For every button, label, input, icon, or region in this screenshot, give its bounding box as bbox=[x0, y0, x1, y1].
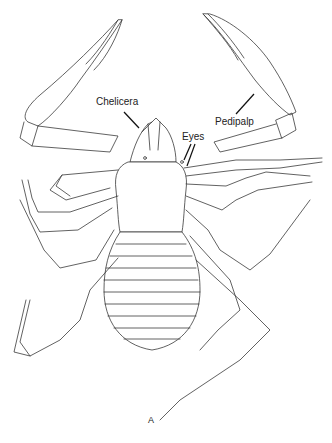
eye-right bbox=[181, 161, 184, 164]
pedipalp-label: Pedipalp bbox=[215, 116, 254, 127]
eyes-leader-2 bbox=[187, 144, 195, 166]
left-pedipalp bbox=[20, 20, 122, 152]
panel-label: A bbox=[148, 415, 154, 425]
right-pedipalp bbox=[203, 14, 296, 152]
cephalothorax bbox=[116, 162, 187, 232]
chelicera-leader bbox=[124, 112, 139, 128]
eyes-label: Eyes bbox=[182, 131, 204, 142]
left-legs bbox=[14, 170, 118, 356]
chelicerae bbox=[130, 118, 176, 162]
arachnid-diagram bbox=[0, 0, 332, 443]
abdomen bbox=[104, 232, 200, 350]
pedipalp-leader bbox=[236, 94, 254, 114]
chelicera-label: Chelicera bbox=[96, 96, 138, 107]
